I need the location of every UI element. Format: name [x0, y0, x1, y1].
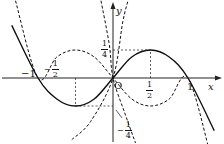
tick-label-neg-quarter: − 1 4: [117, 121, 132, 140]
x-axis-arrow-icon: [215, 76, 222, 81]
graph-figure: y x O −1 1 − 1 2 1 2 1 4 − 1 4: [0, 0, 224, 144]
tick-label-neg-half: − 1 2: [44, 60, 59, 79]
tick-label-half: 1 2: [146, 81, 153, 100]
fraction-denominator: 4: [126, 132, 131, 140]
label-leader-line: [116, 110, 122, 118]
fraction-numerator: 1: [53, 60, 58, 68]
minus-sign: −: [117, 127, 124, 135]
tick-label-quarter: 1 4: [101, 40, 108, 59]
tick-label-neg-one: −1: [21, 69, 36, 79]
minus-sign: −: [44, 66, 51, 74]
fraction-denominator: 4: [102, 51, 107, 59]
y-axis-arrow-icon: [111, 2, 116, 9]
origin-label: O: [114, 81, 122, 91]
y-axis-label: y: [116, 6, 122, 16]
fraction-numerator: 1: [126, 121, 131, 129]
fraction-numerator: 1: [102, 40, 107, 48]
tick-label-one: 1: [187, 82, 193, 92]
fraction-numerator: 1: [147, 81, 152, 89]
x-axis-label: x: [208, 82, 214, 92]
fraction-denominator: 2: [53, 71, 58, 79]
fraction-denominator: 2: [147, 92, 152, 100]
